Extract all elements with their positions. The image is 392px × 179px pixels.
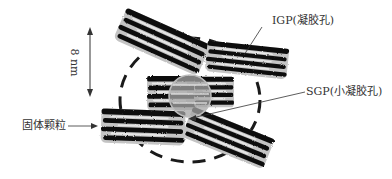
solid-particle-label: 固体颗粒 xyxy=(22,120,66,131)
sgp-label: SGP(小凝胶孔) xyxy=(306,86,382,97)
gel-pore-circle xyxy=(169,75,211,117)
solid-particle-arrow xyxy=(68,123,98,129)
upper-right-particle xyxy=(205,40,290,79)
lower-left-particle xyxy=(100,108,185,145)
dimension-arrow xyxy=(87,27,93,97)
dimension-label: 8 nm xyxy=(68,48,81,76)
igp-label: IGP(凝胶孔) xyxy=(272,15,334,26)
upper-left-particle xyxy=(113,8,211,77)
